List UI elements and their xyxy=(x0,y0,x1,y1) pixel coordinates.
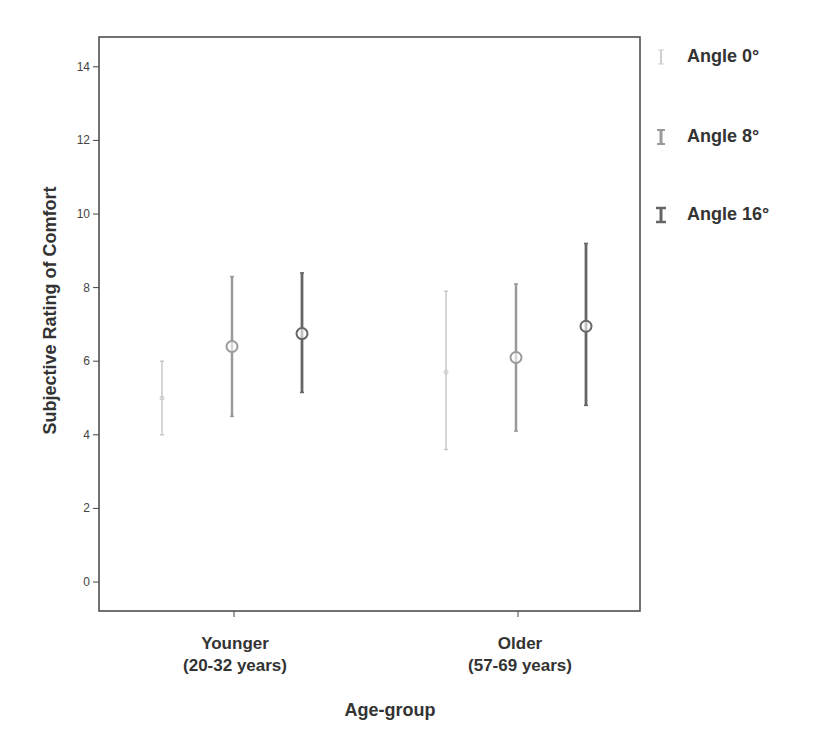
mean-marker xyxy=(511,352,522,363)
x-axis-ticks xyxy=(234,611,518,617)
mean-marker xyxy=(297,328,308,339)
y-tick-label: 14 xyxy=(77,60,91,74)
legend-item-angle-16: Angle 16° xyxy=(655,204,769,225)
errorbar-icon xyxy=(655,47,667,67)
legend-item-angle-8: Angle 8° xyxy=(655,126,759,147)
errorbar-1-1 xyxy=(511,284,522,431)
mean-marker xyxy=(227,341,238,352)
errorbar-2-1 xyxy=(581,243,592,405)
y-tick-label: 6 xyxy=(83,354,90,368)
errorbar-0-1 xyxy=(444,291,448,449)
errorbar-2-0 xyxy=(297,273,308,393)
errorbar-1-0 xyxy=(227,277,238,417)
x-category-younger-range: (20-32 years) xyxy=(145,655,325,677)
x-category-older: Older (57-69 years) xyxy=(430,633,610,677)
error-bars xyxy=(160,243,592,449)
x-category-older-range: (57-69 years) xyxy=(430,655,610,677)
x-category-older-name: Older xyxy=(430,633,610,655)
y-tick-label: 0 xyxy=(83,575,90,589)
errorbar-0-0 xyxy=(160,361,164,435)
errorbar-icon xyxy=(655,205,667,225)
y-tick-label: 12 xyxy=(77,133,91,147)
plot-frame xyxy=(99,37,640,611)
y-tick-label: 10 xyxy=(77,207,91,221)
legend-label: Angle 8° xyxy=(687,126,759,147)
legend-item-angle-0: Angle 0° xyxy=(655,46,759,67)
legend-label: Angle 0° xyxy=(687,46,759,67)
chart-canvas: 02468101214 xyxy=(0,0,822,755)
x-category-younger-name: Younger xyxy=(145,633,325,655)
x-axis-label: Age-group xyxy=(260,700,520,721)
y-tick-label: 2 xyxy=(83,501,90,515)
errorbar-icon xyxy=(655,127,667,147)
y-tick-label: 4 xyxy=(83,428,90,442)
mean-marker xyxy=(581,321,592,332)
y-axis-label: Subjective Rating of Comfort xyxy=(40,171,61,451)
y-axis-ticks: 02468101214 xyxy=(77,60,99,589)
legend-label: Angle 16° xyxy=(687,204,769,225)
x-category-younger: Younger (20-32 years) xyxy=(145,633,325,677)
y-tick-label: 8 xyxy=(83,281,90,295)
